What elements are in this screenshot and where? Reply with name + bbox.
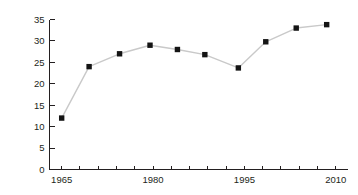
y-tick-label: 10 xyxy=(34,121,45,132)
y-tick-label: 30 xyxy=(34,35,45,46)
data-point-marker xyxy=(59,115,64,120)
y-tick-label: 0 xyxy=(39,164,44,175)
x-tick-label: 1995 xyxy=(234,174,255,185)
y-tick-label: 25 xyxy=(34,57,45,68)
data-point-marker xyxy=(263,39,268,44)
data-point-marker xyxy=(117,51,122,56)
data-point-marker xyxy=(202,52,207,57)
data-point-marker xyxy=(236,65,241,70)
y-tick-label: 5 xyxy=(39,142,44,153)
y-tick-label: 20 xyxy=(34,78,45,89)
x-tick-label: 2010 xyxy=(325,174,346,185)
data-point-marker xyxy=(294,25,299,30)
x-tick-label: 1980 xyxy=(142,174,163,185)
data-point-marker xyxy=(175,47,180,52)
data-point-marker xyxy=(86,64,91,69)
line-chart: 05101520253035 1965198019952010 xyxy=(0,0,358,195)
data-point-marker xyxy=(324,22,329,27)
plot-background xyxy=(0,0,358,195)
chart-canvas: 05101520253035 1965198019952010 xyxy=(0,0,358,195)
data-point-marker xyxy=(147,43,152,48)
y-tick-label: 15 xyxy=(34,100,45,111)
x-tick-label: 1965 xyxy=(51,174,72,185)
y-tick-label: 35 xyxy=(34,14,45,25)
